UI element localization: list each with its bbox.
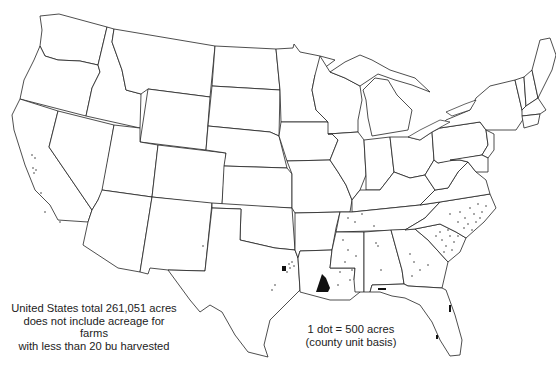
state-new-mexico [140, 197, 212, 274]
acreage-total-line-3: with less than 20 bu harvested [8, 340, 180, 353]
state-kansas [222, 166, 292, 208]
state-colorado [152, 145, 226, 205]
state-new-york [440, 80, 524, 130]
state-wyoming [140, 89, 210, 150]
dot-scale-line-2: (county unit basis) [286, 336, 416, 349]
acreage-total-note: United States total 261,051 acres does n… [8, 302, 180, 352]
state-michigan [363, 78, 412, 136]
dot-scale-line-1: 1 dot = 500 acres [286, 323, 416, 336]
dot-cluster-texas [282, 266, 286, 271]
acreage-total-line-1: United States total 261,051 acres [8, 302, 180, 315]
dot-scale-legend: 1 dot = 500 acres (county unit basis) [286, 323, 416, 348]
acreage-total-line-2: does not include acreage for farms [8, 315, 180, 340]
state-connecticut-rhode-island [522, 114, 540, 128]
state-north-dakota [212, 46, 280, 90]
state-montana [112, 29, 215, 97]
